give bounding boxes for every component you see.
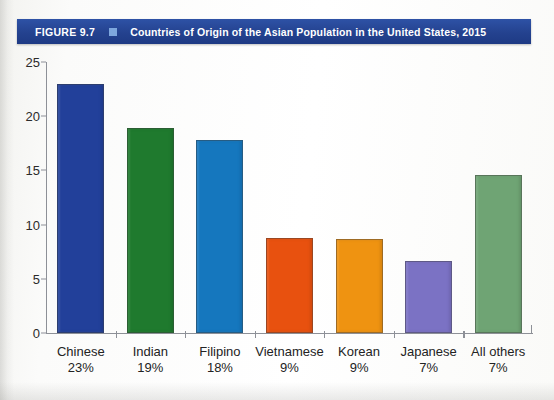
- bar-fill: [405, 261, 452, 333]
- bar-fill: [127, 128, 174, 333]
- square-marker-icon: [109, 28, 117, 36]
- bar-fill: [475, 175, 522, 333]
- x-axis-label-japanese: Japanese7%: [394, 344, 464, 376]
- x-axis-label-all-others: All others7%: [463, 344, 533, 376]
- y-axis-tick-mark: [41, 278, 46, 279]
- y-axis-tick-label: 25: [26, 55, 40, 70]
- y-axis-tick-mark: [41, 333, 46, 334]
- x-axis-tick-mark: [116, 331, 117, 338]
- bar-fill: [196, 140, 243, 333]
- bars-layer: [46, 52, 533, 334]
- x-axis-label-korean: Korean9%: [324, 344, 394, 376]
- category-name: All others: [463, 344, 533, 360]
- bar-chinese: [57, 84, 104, 333]
- y-axis-tick-label: 15: [26, 163, 40, 178]
- category-percent: 19%: [116, 360, 186, 376]
- x-axis-tick-mark: [394, 331, 395, 338]
- chart-plot-area: 0510152025 Chinese23%Indian19%Filipino18…: [0, 52, 554, 392]
- category-percent: 7%: [394, 360, 464, 376]
- figure-container: FIGURE 9.7 Countries of Origin of the As…: [0, 0, 554, 400]
- category-name: Korean: [324, 344, 394, 360]
- x-axis-tick-mark: [463, 331, 464, 338]
- bar-fill: [336, 239, 383, 333]
- bar-fill: [57, 84, 104, 333]
- y-axis-tick-mark: [41, 62, 46, 63]
- category-percent: 9%: [324, 360, 394, 376]
- bar-fill: [266, 238, 313, 333]
- bar-all-others: [475, 175, 522, 333]
- figure-number-label: FIGURE 9.7: [35, 26, 95, 38]
- y-axis-tick-mark: [41, 116, 46, 117]
- bar-filipino: [196, 140, 243, 333]
- category-percent: 18%: [185, 360, 255, 376]
- bar-japanese: [405, 261, 452, 333]
- x-axis-label-indian: Indian19%: [116, 344, 186, 376]
- y-axis-tick-label: 0: [33, 326, 40, 341]
- y-axis-tick-mark: [41, 170, 46, 171]
- category-name: Japanese: [394, 344, 464, 360]
- category-name: Vietnamese: [255, 344, 325, 360]
- bar-korean: [336, 239, 383, 333]
- bar-indian: [127, 128, 174, 333]
- x-axis-label-chinese: Chinese23%: [46, 344, 116, 376]
- y-axis-tick-label: 10: [26, 217, 40, 232]
- category-name: Indian: [116, 344, 186, 360]
- category-percent: 23%: [46, 360, 116, 376]
- y-axis-tick-label: 5: [33, 271, 40, 286]
- x-axis-category-labels: Chinese23%Indian19%Filipino18%Vietnamese…: [46, 338, 533, 388]
- x-axis-label-vietnamese: Vietnamese9%: [255, 344, 325, 376]
- category-percent: 9%: [255, 360, 325, 376]
- figure-title-text: Countries of Origin of the Asian Populat…: [130, 26, 486, 38]
- figure-title-banner: FIGURE 9.7 Countries of Origin of the As…: [17, 19, 531, 44]
- category-percent: 7%: [463, 360, 533, 376]
- y-axis-tick-mark: [41, 224, 46, 225]
- category-name: Filipino: [185, 344, 255, 360]
- x-axis-label-filipino: Filipino18%: [185, 344, 255, 376]
- category-name: Chinese: [46, 344, 116, 360]
- x-axis-tick-mark: [185, 331, 186, 338]
- y-axis-tick-label: 20: [26, 109, 40, 124]
- x-axis-tick-mark: [255, 331, 256, 338]
- y-axis-labels: 0510152025: [0, 52, 40, 392]
- bar-vietnamese: [266, 238, 313, 333]
- x-axis-tick-mark: [324, 331, 325, 338]
